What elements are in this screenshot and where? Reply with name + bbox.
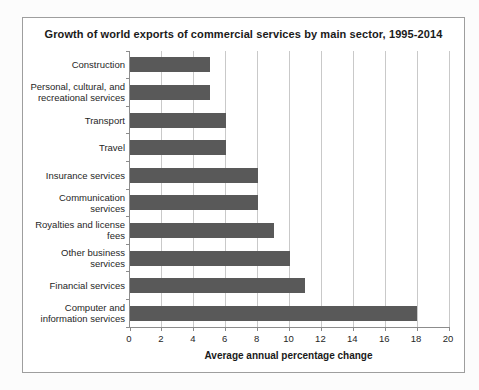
x-tick-label-8: 8: [245, 333, 269, 344]
page: { "chart_data": { "type": "bar", "orient…: [0, 0, 479, 390]
category-label: Personal, cultural, and recreational ser…: [27, 81, 125, 103]
x-tick-label-0: 0: [117, 333, 141, 344]
x-tick-label-10: 10: [277, 333, 301, 344]
x-tick-label-20: 20: [436, 333, 460, 344]
x-axis-title: Average annual percentage change: [129, 350, 448, 361]
category-axis-labels: ConstructionPersonal, cultural, and recr…: [23, 51, 125, 327]
category-label: Other business services: [27, 247, 125, 269]
x-tick-label-4: 4: [181, 333, 205, 344]
category-label: Financial services: [27, 280, 125, 291]
category-label: Royalties and license fees: [27, 219, 125, 241]
category-label: Construction: [27, 59, 125, 70]
category-label: Transport: [27, 115, 125, 126]
category-label: Communication services: [27, 192, 125, 214]
gridline-x-20: [449, 51, 450, 327]
x-axis-tick: [449, 327, 450, 331]
category-label: Insurance services: [27, 170, 125, 181]
x-tick-label-2: 2: [149, 333, 173, 344]
x-tick-label-12: 12: [308, 333, 332, 344]
x-tick-label-14: 14: [340, 333, 364, 344]
category-label: Computer and information services: [27, 302, 125, 324]
x-tick-label-6: 6: [213, 333, 237, 344]
x-tick-label-16: 16: [372, 333, 396, 344]
chart-frame: Growth of world exports of commercial se…: [22, 17, 465, 373]
x-tick-labels-layer: 02468101214161820: [129, 18, 448, 372]
category-label: Travel: [27, 142, 125, 153]
x-tick-label-18: 18: [404, 333, 428, 344]
